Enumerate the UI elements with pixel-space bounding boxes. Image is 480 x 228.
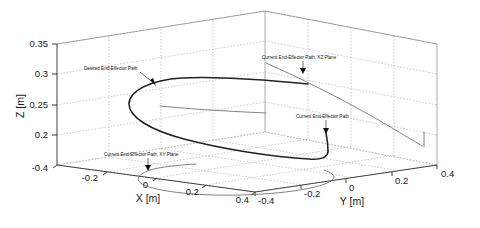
z-tick-label: 0.2 [35, 129, 48, 140]
curve-current-xz [266, 63, 422, 146]
curve-current-xy-open [150, 164, 196, 170]
y-tick-label: 0 [349, 182, 354, 193]
curve-current-3d-drop [326, 133, 328, 151]
z-axis [52, 44, 57, 165]
plot-canvas: Desired End-Effector Path Current End-Ef… [0, 0, 480, 228]
series-current-path-xz [266, 63, 424, 147]
y-tick-label: -0.2 [304, 188, 320, 199]
annotation-current-path: Current End-Effector Path [296, 114, 349, 134]
annotation-desired-path-label: Desired End-Effector Path [84, 66, 138, 71]
z-tick-label: 0.35 [30, 38, 49, 49]
x-axis-title: X [m] [136, 192, 161, 204]
z-axis-title: Z [m] [14, 94, 26, 118]
y-axis [255, 165, 437, 196]
x-tick-label: 0.4 [236, 194, 249, 205]
annotation-current-path-xz-arrowhead [300, 68, 306, 74]
z-tick-label: 0.25 [30, 99, 49, 110]
x-tick-label: -0.2 [82, 172, 98, 183]
y-axis-title: Y [m] [340, 195, 364, 207]
y-tick-label: 0.4 [441, 168, 454, 179]
x-tick-label: -0.4 [32, 162, 48, 173]
z-tick-label: 0.3 [35, 68, 48, 79]
z-axis-tick-labels: 0.35 0.3 0.25 0.2 [30, 38, 49, 140]
x-tick-label: 0 [143, 179, 148, 190]
annotation-current-path-arrowhead [323, 128, 329, 134]
annotation-desired-path: Desired End-Effector Path [84, 66, 156, 86]
floor-plane [57, 132, 437, 192]
y-tick-label: -0.4 [258, 195, 274, 206]
back-left-wall [57, 11, 265, 165]
annotation-current-path-xz-label: Current End-Effector Path, XZ Plane [262, 55, 337, 60]
figure-3d-plot: Desired End-Effector Path Current End-Ef… [0, 0, 480, 228]
annotation-current-path-xz: Current End-Effector Path, XZ Plane [262, 55, 337, 74]
annotation-current-path-xy-label: Current End-Effector Path, XY Plane [104, 152, 179, 157]
x-tick-label: 0.2 [186, 186, 199, 197]
annotation-current-path-label: Current End-Effector Path [296, 114, 349, 119]
y-tick-label: 0.2 [395, 175, 408, 186]
